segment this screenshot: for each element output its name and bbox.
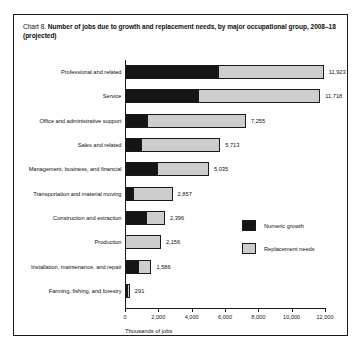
x-tick-mark [325,308,326,312]
bar-value-label: 5,035 [214,166,228,172]
legend-item-growth: Numeric growth [242,220,315,231]
x-tick-mark [125,308,126,312]
chart-bar-row: Professional and related11,923 [125,60,325,84]
stacked-bar [125,187,173,201]
bar-segment-replacement [218,66,323,78]
chart-title: Chart 8. Number of jobs due to growth an… [23,22,341,40]
stacked-bar [125,89,320,103]
bar-segment-replacement [126,236,160,248]
chart-bar-row: Sales and related5,713 [125,133,325,157]
category-label: Professional and related [61,69,122,75]
chart-bar-row: Office and administrative support7,255 [125,109,325,133]
bar-value-label: 2,396 [170,215,184,221]
bar-segment-replacement [138,261,150,273]
chart-bar-row: Service11,718 [125,84,325,108]
bar-segment-replacement [157,163,208,175]
x-tick-mark [225,308,226,312]
category-label: Service [103,93,122,99]
x-tick-label: 12,000 [316,314,333,320]
legend-label-replacement: Replacement needs [264,246,315,252]
bar-value-label: 2,857 [178,191,192,197]
chart-bar-row: Farming, fishing, and forestry291 [125,279,325,303]
category-label: Transportation and material moving [33,191,121,197]
bar-value-label: 7,255 [251,118,265,124]
category-label: Construction and extraction [53,215,121,221]
bar-segment-replacement [141,139,220,151]
chart-figure: Chart 8. Number of jobs due to growth an… [13,14,348,336]
bar-value-label: 291 [135,288,145,294]
category-label: Office and administrative support [39,118,121,124]
x-tick-label: 6,000 [218,314,232,320]
stacked-bar [125,114,246,128]
bar-segment-growth [126,163,157,175]
bar-value-label: 11,923 [329,69,346,75]
stacked-bar [125,211,165,225]
x-tick-mark [258,308,259,312]
chart-legend: Numeric growth Replacement needs [242,220,315,266]
stacked-bar [125,235,161,249]
x-tick-mark [292,308,293,312]
x-tick-mark [158,308,159,312]
x-tick-label: 4,000 [185,314,199,320]
plot-area: Professional and related11,923Service11,… [125,60,325,303]
bar-segment-growth [126,139,141,151]
x-tick-label: 0 [123,314,126,320]
x-tick-label: 10,000 [283,314,300,320]
bar-segment-replacement [198,90,319,102]
chart-title-text: Number of jobs due to growth and replace… [23,23,336,39]
stacked-bar [125,138,220,152]
x-tick-mark [192,308,193,312]
x-tick-label: 8,000 [251,314,265,320]
bar-segment-growth [126,261,138,273]
chart-bar-row: Management, business, and financial5,035 [125,157,325,181]
bar-segment-replacement [127,285,129,297]
category-label: Installation, maintenance, and repair [31,264,122,270]
category-label: Production [95,239,122,245]
bar-value-label: 5,713 [225,142,239,148]
category-label: Sales and related [78,142,122,148]
stacked-bar [125,162,209,176]
bar-segment-growth [126,90,198,102]
bar-value-label: 1,586 [156,264,170,270]
legend-swatch-growth-icon [242,220,256,231]
stacked-bar [125,260,151,274]
chart-bar-row: Transportation and material moving2,857 [125,182,325,206]
bar-segment-replacement [147,115,245,127]
bar-segment-replacement [146,212,164,224]
bar-segment-replacement [133,188,171,200]
legend-item-replacement: Replacement needs [242,243,315,254]
category-label: Farming, fishing, and forestry [49,288,122,294]
bar-value-label: 11,718 [325,93,342,99]
x-tick-label: 2,000 [151,314,165,320]
category-label: Management, business, and financial [29,166,122,172]
stacked-bar [125,65,324,79]
x-axis-title: Thousands of jobs [125,328,172,334]
bar-value-label: 2,156 [166,239,180,245]
legend-label-growth: Numeric growth [264,223,304,229]
chart-number: Chart 8. [23,23,46,30]
stacked-bar [125,284,130,298]
bar-segment-growth [126,188,133,200]
bar-segment-growth [126,212,146,224]
legend-swatch-replacement-icon [242,243,256,254]
bar-segment-growth [126,66,218,78]
bar-segment-growth [126,115,147,127]
